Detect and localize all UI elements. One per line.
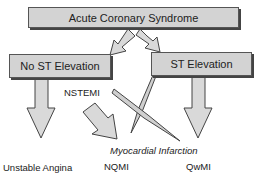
arrow-root-to-no-st xyxy=(110,29,135,55)
label-myocardial-infarction: Myocardial Infarction xyxy=(110,145,198,156)
node-no-st-elevation: No ST Elevation xyxy=(9,54,111,78)
node-acute-coronary-syndrome: Acute Coronary Syndrome xyxy=(28,7,239,28)
needle-st-to-mi xyxy=(131,75,156,133)
arrow-no-st-to-unstable-angina xyxy=(27,78,55,138)
arrow-root-to-st xyxy=(136,29,160,52)
label-qwmi: QwMI xyxy=(186,161,211,172)
arrow-nstemi-to-nqmi xyxy=(83,103,117,139)
label-unstable-angina: Unstable Angina xyxy=(3,162,72,173)
label-nstemi: NSTEMI xyxy=(64,87,100,98)
arrow-st-to-qwmi xyxy=(184,77,212,138)
label-nqmi: NQMI xyxy=(104,161,129,172)
node-st-elevation: ST Elevation xyxy=(151,52,252,76)
acs-diagram: Acute Coronary Syndrome No ST Elevation … xyxy=(0,0,261,180)
